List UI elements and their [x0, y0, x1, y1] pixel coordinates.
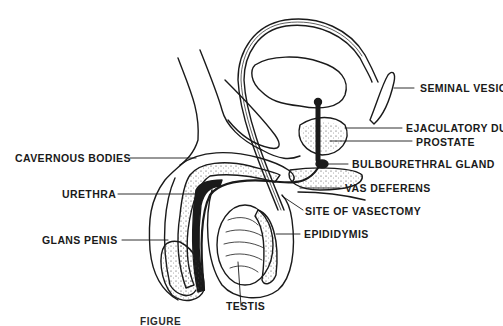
pubic-bone [225, 80, 279, 148]
label-cavernous-bodies: CAVERNOUS BODIES [15, 152, 131, 164]
leader-site-of-vasectomy [282, 196, 303, 210]
bladder [252, 57, 346, 108]
label-prostate: PROSTATE [416, 136, 475, 148]
label-epididymis: EPIDIDYMIS [304, 228, 369, 240]
ejaculatory-duct-top [315, 99, 322, 106]
prostate-fill [302, 122, 344, 152]
label-bulbourethral-gland: BULBOURETHRAL GLAND [352, 158, 495, 170]
label-ejaculatory-duct: EJACULATORY DUCT [406, 122, 503, 134]
label-seminal-vesicle: SEMINAL VESICLE [420, 82, 503, 94]
label-testis: TESTIS [226, 300, 265, 312]
figure-caption: FIGURE [140, 316, 181, 326]
epididymis [255, 210, 277, 284]
label-site-of-vasectomy: SITE OF VASECTOMY [305, 205, 421, 217]
seminal-vesicle [370, 72, 395, 124]
label-vas-deferens: VAS DEFERENS [345, 182, 431, 194]
testis-lobules [224, 218, 264, 272]
bulbourethral-gland [316, 160, 328, 168]
label-glans-penis: GLANS PENIS [42, 234, 118, 246]
label-urethra: URETHRA [62, 188, 116, 200]
